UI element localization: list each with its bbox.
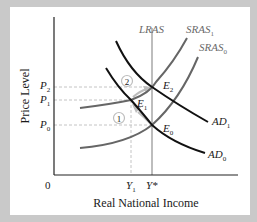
lras-label: LRAS — [138, 23, 165, 35]
ad0-label: AD0 — [207, 148, 227, 163]
ad1-label: AD1 — [211, 115, 231, 130]
step2-marker: 2 — [122, 76, 133, 87]
step1-label: 1 — [117, 114, 122, 124]
p2-label: P2 — [39, 79, 51, 94]
origin-label: 0 — [45, 179, 51, 191]
e2-label: E2 — [162, 79, 174, 94]
p1-label: P1 — [39, 93, 51, 108]
x-axis-title: Real National Income — [93, 196, 198, 210]
ad-as-diagram: 2 1 LRAS SRAS1 SRAS0 AD1 AD0 E2 E1 E0 P2… — [0, 0, 257, 222]
y1-label: Y1 — [126, 179, 136, 194]
p0-label: P0 — [39, 118, 51, 133]
sras0-label: SRAS0 — [199, 41, 227, 56]
step2-label: 2 — [125, 77, 130, 87]
ystar-label: Y* — [146, 179, 158, 191]
step1-marker: 1 — [114, 113, 125, 124]
sras1-label: SRAS1 — [186, 23, 214, 38]
y-axis-title: Price Level — [18, 68, 32, 124]
